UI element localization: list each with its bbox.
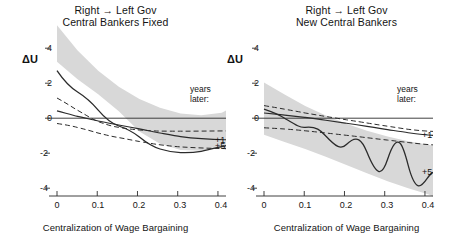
x-tick-label-02: 0.2 [127,200,151,210]
x-tick-label-01: 0.1 [293,200,317,210]
series-label-plus5: +5 [422,167,432,177]
x-tick-label-03: 0.3 [168,200,192,210]
x-axis-label: Centralization of Wage Bargaining [231,222,462,233]
x-tick-label-04: 0.4 [209,200,233,210]
plot-area-left [0,0,231,247]
legend-header-years: years [190,84,211,94]
x-axis-label: Centralization of Wage Bargaining [0,222,231,233]
panel-central-bankers-fixed: Right → Left Gov Central Bankers Fixed Δ… [0,0,231,247]
x-tick-label-0: 0 [252,200,276,210]
series-label-plus5: +5 [215,141,225,151]
legend-header-later: later: [190,94,209,104]
x-tick-label-03: 0.3 [375,200,399,210]
panel-new-central-bankers: Right → Left Gov New Central Bankers ΔU … [231,0,462,247]
legend-header-later: later: [397,94,416,104]
series-label-plus1: +1 [422,130,432,140]
x-tick-label-01: 0.1 [86,200,110,210]
x-tick-label-04: 0.4 [416,200,440,210]
two-panel-line-chart-figure: Right → Left Gov Central Bankers Fixed Δ… [0,0,462,247]
x-tick-label-0: 0 [45,200,69,210]
legend-header-years: years [397,84,418,94]
x-tick-label-02: 0.2 [334,200,358,210]
